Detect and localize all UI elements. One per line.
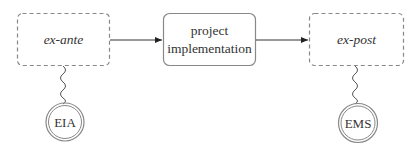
ems-label: EMS — [336, 115, 380, 132]
eia-label: EIA — [45, 114, 85, 131]
ex-post-label: ex-post — [309, 31, 404, 48]
wavy-connector-ems — [353, 66, 358, 104]
project-label-line1: project — [163, 22, 256, 39]
ex-ante-label: ex-ante — [17, 31, 110, 48]
wavy-connector-eia — [61, 66, 66, 104]
project-label-line2: implementation — [163, 40, 256, 57]
